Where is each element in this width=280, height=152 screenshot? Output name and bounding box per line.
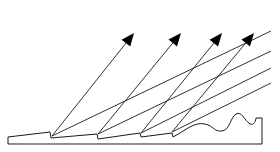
- arrowhead-icon: [122, 33, 134, 47]
- reflection-diagram: [0, 0, 280, 152]
- arrow-shaft: [172, 43, 246, 132]
- incident-line-4: [172, 83, 271, 132]
- arrowhead-icon: [210, 33, 222, 47]
- incident-line-1: [52, 31, 271, 136]
- arrow-shaft: [52, 43, 126, 136]
- arrow-3: [141, 33, 222, 133]
- incident-line-2: [98, 51, 271, 134]
- arrowhead-icon: [168, 33, 181, 47]
- incident-lines: [52, 31, 271, 136]
- arrow-1: [52, 33, 134, 136]
- arrow-shaft: [98, 43, 173, 134]
- reflected-arrows: [52, 33, 254, 136]
- sawtooth-surface: [8, 113, 262, 144]
- incident-line-3: [141, 68, 271, 133]
